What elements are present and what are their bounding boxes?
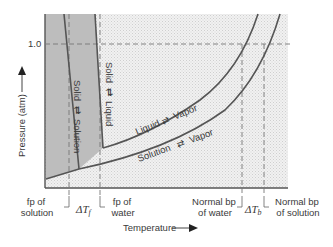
y-axis-label-group: Pressure (atm) bbox=[16, 66, 27, 157]
delta-tf-label: ΔTf bbox=[75, 203, 93, 217]
fp-solution-bracket bbox=[64, 196, 69, 207]
label-sl-arrow: ⇄ bbox=[104, 88, 115, 96]
delta-tb-label: ΔTb bbox=[244, 203, 262, 217]
fp-solution-label-2: solution bbox=[21, 207, 54, 218]
label-liquid-1: Liquid bbox=[104, 101, 115, 126]
bp-solution-label-1: Normal bp bbox=[275, 196, 319, 207]
label-solid-1: Solid bbox=[72, 80, 83, 101]
label-solid-2: Solid bbox=[104, 62, 115, 83]
fp-solution-label-1: fp of bbox=[27, 196, 46, 207]
bp-water-bracket bbox=[237, 196, 242, 207]
phase-diagram: 1.0 Pressure (atm) Solid ⇄ Solution Soli… bbox=[0, 0, 333, 247]
bp-water-label-1: Normal bp bbox=[192, 196, 236, 207]
y-tick-1-0: 1.0 bbox=[28, 38, 41, 49]
x-axis-arrow-icon bbox=[189, 224, 198, 232]
y-axis-label: Pressure (atm) bbox=[16, 94, 27, 157]
x-axis-label: Temperature bbox=[123, 222, 176, 233]
fp-water-label-1: fp of bbox=[113, 196, 132, 207]
bp-water-label-2: of water bbox=[198, 207, 232, 218]
fp-water-label-2: water bbox=[110, 207, 134, 218]
bp-solution-bracket bbox=[264, 196, 269, 207]
bp-solution-label-2: of solution bbox=[276, 207, 319, 218]
y-axis-arrow-icon bbox=[18, 66, 26, 75]
fp-water-bracket bbox=[100, 196, 105, 207]
label-solution: Solution bbox=[72, 119, 83, 153]
label-ss-arrow: ⇄ bbox=[72, 106, 83, 114]
